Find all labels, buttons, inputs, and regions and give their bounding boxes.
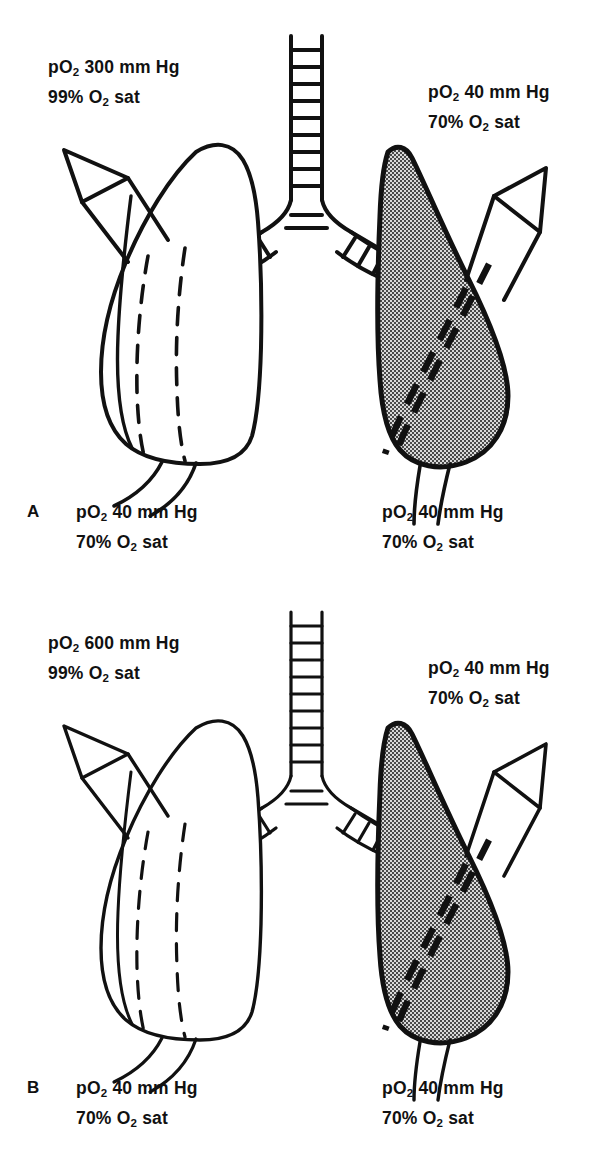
panel-a-left-inflow-label: pO2 300 mm Hg 99% O2 sat [48, 55, 180, 114]
panel-b-left-outflow-label: pO2 40 mm Hg 70% O2 sat [76, 1076, 198, 1135]
left-lung-outline [101, 721, 261, 1040]
right-lung-inflow-arrow-icon [494, 168, 546, 232]
panel-a-letter: A [27, 502, 39, 522]
panel-b-left-inflow-label: pO2 600 mm Hg 99% O2 sat [48, 631, 180, 690]
trachea-icon [291, 612, 322, 776]
right-lung-inflow-arrow-icon [494, 744, 546, 808]
panel-b-letter: B [27, 1078, 39, 1098]
panel-b-right-inflow-label: pO2 40 mm Hg 70% O2 sat [428, 656, 550, 715]
left-lung-outline [101, 145, 261, 464]
left-lung-inflow-arrow-icon [64, 726, 128, 778]
panel-a-right-outflow-label: pO2 40 mm Hg 70% O2 sat [382, 500, 504, 559]
trachea-icon [291, 36, 322, 200]
panel-a-left-outflow-label: pO2 40 mm Hg 70% O2 sat [76, 500, 198, 559]
panel-a-right-inflow-label: pO2 40 mm Hg 70% O2 sat [428, 80, 550, 139]
figure-page: A pO2 300 mm Hg 99% O2 sat pO2 40 mm Hg … [0, 0, 601, 1152]
panel-b: B pO2 600 mm Hg 99% O2 sat pO2 40 mm Hg … [0, 576, 601, 1152]
panel-a: A pO2 300 mm Hg 99% O2 sat pO2 40 mm Hg … [0, 0, 601, 576]
panel-b-right-outflow-label: pO2 40 mm Hg 70% O2 sat [382, 1076, 504, 1135]
left-lung-inflow-arrow-icon [64, 150, 128, 202]
